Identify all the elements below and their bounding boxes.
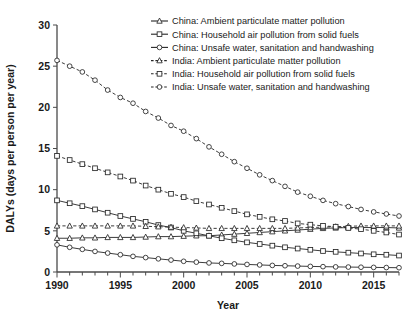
- series-marker-1: [80, 204, 85, 209]
- legend-marker-1: [157, 32, 162, 37]
- series-marker-1: [283, 245, 288, 250]
- series-marker-5: [257, 172, 262, 177]
- series-marker-2: [219, 261, 224, 266]
- legend-marker-4: [157, 71, 162, 76]
- series-marker-2: [156, 256, 161, 261]
- series-marker-5: [308, 194, 313, 199]
- series-marker-5: [321, 198, 326, 203]
- legend-item-1: China: Household air pollution from soli…: [151, 30, 359, 40]
- series-marker-1: [105, 210, 110, 215]
- series-marker-5: [93, 78, 98, 83]
- series-marker-1: [397, 253, 402, 258]
- series-marker-1: [131, 217, 136, 222]
- series-marker-5: [67, 64, 72, 69]
- series-marker-2: [359, 265, 364, 270]
- series-marker-2: [207, 261, 212, 266]
- series-marker-2: [245, 262, 250, 267]
- y-tick-label: 30: [38, 19, 50, 31]
- series-marker-5: [397, 214, 402, 219]
- series-marker-5: [194, 136, 199, 141]
- series-marker-5: [80, 70, 85, 75]
- series-marker-2: [384, 265, 389, 270]
- series-marker-2: [67, 245, 72, 250]
- y-tick-label: 5: [44, 225, 50, 237]
- line-chart: 051015202530199019952000200520102015 Chi…: [0, 0, 413, 320]
- series-marker-2: [321, 264, 326, 269]
- series-marker-1: [93, 207, 98, 212]
- legend-item-3: India: Ambient particulate matter pollut…: [151, 56, 341, 66]
- legend-marker-2: [157, 45, 162, 50]
- series-marker-5: [232, 159, 237, 164]
- series-marker-4: [219, 205, 224, 210]
- series-marker-2: [105, 251, 110, 256]
- series-marker-4: [156, 187, 161, 192]
- legend-item-0: China: Ambient particulate matter pollut…: [151, 16, 345, 26]
- series-marker-2: [169, 258, 174, 263]
- y-tick-label: 25: [38, 60, 50, 72]
- series-marker-2: [194, 260, 199, 265]
- y-tick-label: 10: [38, 183, 50, 195]
- series-marker-2: [80, 247, 85, 252]
- series-marker-1: [257, 242, 262, 247]
- series-marker-1: [219, 236, 224, 241]
- series-marker-2: [346, 265, 351, 270]
- series-marker-5: [105, 88, 110, 93]
- x-tick-label: 2000: [172, 279, 196, 291]
- series-marker-2: [270, 263, 275, 268]
- series-marker-4: [384, 230, 389, 235]
- series-marker-5: [169, 123, 174, 128]
- series-marker-4: [333, 224, 338, 229]
- series-marker-2: [93, 249, 98, 254]
- series-marker-2: [181, 259, 186, 264]
- series-marker-1: [384, 252, 389, 257]
- series-marker-1: [270, 243, 275, 248]
- x-tick-label: 2015: [362, 279, 386, 291]
- series-marker-1: [245, 240, 250, 245]
- x-tick-label: 1990: [45, 279, 69, 291]
- series-marker-2: [257, 263, 262, 268]
- series-marker-1: [194, 231, 199, 236]
- series-marker-5: [207, 145, 212, 150]
- series-marker-4: [359, 227, 364, 232]
- series-marker-4: [346, 226, 351, 231]
- series-2: [55, 242, 402, 270]
- series-marker-2: [131, 254, 136, 259]
- series-marker-2: [308, 264, 313, 269]
- x-axis-title: Year: [217, 299, 239, 311]
- series-marker-5: [333, 201, 338, 206]
- series-marker-3: [396, 223, 401, 228]
- series-marker-5: [245, 166, 250, 171]
- series-marker-1: [55, 198, 60, 203]
- x-tick-label: 2005: [235, 279, 259, 291]
- series-marker-2: [55, 242, 60, 247]
- legend-marker-5: [157, 85, 162, 90]
- series-marker-5: [219, 152, 224, 157]
- legend-label-0: China: Ambient particulate matter pollut…: [172, 16, 345, 26]
- series-marker-1: [118, 214, 123, 219]
- chart-figure: 051015202530199019952000200520102015 Chi…: [0, 0, 413, 320]
- series-marker-5: [295, 190, 300, 195]
- series-marker-4: [105, 170, 110, 175]
- series-marker-5: [143, 109, 148, 114]
- series-marker-5: [118, 95, 123, 100]
- series-marker-5: [359, 207, 364, 212]
- chart-legend: China: Ambient particulate matter pollut…: [151, 16, 374, 92]
- legend-item-2: China: Unsafe water, sanitation and hand…: [151, 43, 374, 53]
- series-marker-4: [55, 154, 60, 159]
- series-marker-4: [118, 174, 123, 179]
- series-marker-4: [245, 212, 250, 217]
- series-marker-4: [181, 195, 186, 200]
- legend-label-1: China: Household air pollution from soli…: [172, 30, 359, 40]
- series-marker-4: [169, 191, 174, 196]
- y-tick-label: 0: [44, 266, 50, 278]
- series-marker-4: [194, 199, 199, 204]
- series-marker-2: [371, 265, 376, 270]
- series-marker-4: [93, 166, 98, 171]
- series-marker-4: [232, 209, 237, 214]
- series-marker-2: [333, 265, 338, 270]
- y-tick-label: 20: [38, 101, 50, 113]
- series-marker-2: [283, 263, 288, 268]
- series-marker-4: [270, 217, 275, 222]
- legend-item-5: India: Unsafe water, sanitation and hand…: [151, 82, 370, 92]
- series-marker-5: [131, 101, 136, 106]
